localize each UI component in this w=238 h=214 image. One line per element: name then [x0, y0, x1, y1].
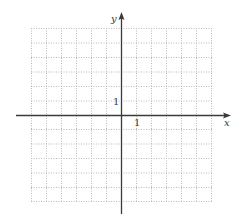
y-axis-label: y: [110, 13, 117, 24]
x-axis-label: x: [224, 117, 230, 128]
x-unit-tick-label: 1: [134, 117, 140, 128]
y-axis: [119, 12, 125, 214]
coordinate-plane: y x 1 1: [0, 0, 238, 214]
y-unit-tick-label: 1: [113, 96, 119, 107]
x-axis: [16, 113, 231, 119]
